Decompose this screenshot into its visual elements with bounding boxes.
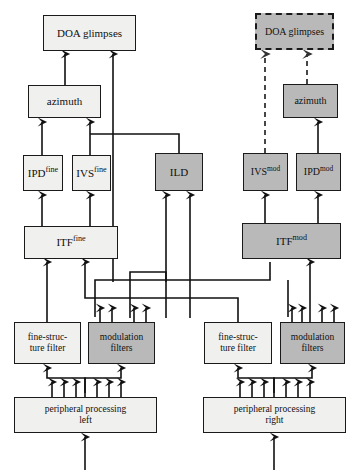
node-label-mod_filter_left: modulation filters (100, 332, 143, 354)
node-doa_right: DOA glimpses (255, 13, 334, 50)
edge-mod-filter-left-to-ild (130, 272, 166, 318)
node-ivs_fine: IVSfine (72, 155, 111, 191)
node-superscript-ivs_mod: mod (267, 164, 280, 173)
edge-ild-to-azimuth-left (90, 134, 179, 153)
node-ipd_mod: IPDmod (296, 153, 341, 191)
node-doa_left: DOA glimpses (43, 15, 136, 51)
edge-periph-right-to-mod-filter (274, 368, 312, 393)
node-itf_mod: ITFmod (242, 223, 341, 259)
edge-cross-right-to-left (120, 290, 262, 322)
node-ipd_fine: IPDfine (23, 155, 63, 191)
edge-mod-filter-left-to-itf-mod-a (95, 262, 270, 317)
node-label-doa_right: DOA glimpses (265, 26, 324, 38)
node-superscript-ivs_fine: fine (94, 165, 107, 174)
node-label-mod_filter_right: modulation filters (291, 332, 334, 354)
edge-periph-left-to-mod-filter (85, 368, 121, 393)
node-label-periph_left: peripheral processing left (45, 404, 127, 426)
node-label-ipd_fine: IPDfine (28, 167, 58, 180)
node-azimuth_left: azimuth (28, 85, 101, 118)
node-mod_filter_left: modulation filters (88, 322, 155, 364)
node-label-doa_left: DOA glimpses (57, 27, 122, 40)
node-label-fine_filter_left: fine-struc- ture filter (28, 332, 68, 354)
node-label-periph_right: peripheral processing right (234, 404, 316, 426)
node-label-fine_filter_right: fine-struc- ture filter (218, 332, 258, 354)
node-ild: ILD (155, 153, 203, 191)
node-fine_filter_right: fine-struc- ture filter (204, 322, 272, 364)
node-label-ivs_fine: IVSfine (76, 167, 106, 180)
node-superscript-itf_mod: mod (293, 233, 307, 242)
node-ivs_mod: IVSmod (243, 153, 288, 191)
node-azimuth_right: azimuth (283, 84, 338, 118)
node-label-itf_fine: ITFfine (56, 236, 85, 249)
node-label-azimuth_right: azimuth (294, 95, 326, 107)
node-itf_fine: ITFfine (24, 226, 118, 259)
node-periph_right: peripheral processing right (203, 397, 346, 433)
node-superscript-ipd_mod: mod (320, 164, 333, 173)
node-label-ivs_mod: IVSmod (251, 166, 280, 178)
node-fine_filter_left: fine-struc- ture filter (14, 322, 81, 364)
edge-fine-filter-right-to-itf-fine (85, 262, 238, 322)
node-mod_filter_right: modulation filters (280, 322, 345, 364)
node-label-ipd_mod: IPDmod (304, 166, 333, 178)
node-label-ild: ILD (170, 166, 188, 179)
node-label-azimuth_left: azimuth (47, 95, 82, 108)
diagram-canvas: DOA glimpsesDOA glimpsesazimuthazimuthIP… (0, 0, 361, 470)
node-superscript-itf_fine: fine (73, 234, 86, 243)
edge-periph-right-to-fine-filter (238, 368, 274, 393)
node-label-itf_mod: ITFmod (276, 235, 307, 248)
node-superscript-ipd_fine: fine (46, 165, 59, 174)
node-periph_left: peripheral processing left (14, 397, 157, 433)
